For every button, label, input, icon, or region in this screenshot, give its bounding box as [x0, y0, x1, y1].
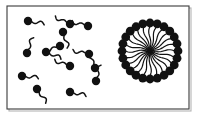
monomer-3-head	[84, 22, 92, 30]
figure-root	[0, 0, 200, 116]
monomer-10-head	[92, 77, 100, 85]
micelle-formation-diagram	[0, 0, 200, 116]
monomer-5-head	[23, 49, 31, 57]
monomer-12-head	[66, 88, 74, 96]
micelle-core	[148, 49, 153, 54]
micelle-head-24	[138, 20, 147, 29]
monomer-1-head	[24, 17, 32, 25]
monomer-4-head	[59, 28, 67, 36]
monomer-8-head	[66, 62, 74, 70]
monomer-13-head	[56, 42, 64, 50]
monomer-9-head	[18, 72, 26, 80]
monomer-11-head	[33, 85, 41, 93]
monomer-14-head	[91, 64, 99, 72]
